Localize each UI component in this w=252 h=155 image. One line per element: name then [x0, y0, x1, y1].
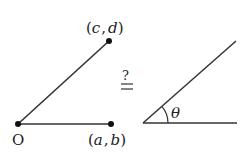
vector-oc	[18, 41, 109, 124]
right-figure: θ	[143, 41, 237, 123]
theta-label: θ	[171, 104, 180, 122]
point-c-label: (c,d)	[86, 19, 124, 37]
origin-point	[15, 121, 21, 127]
angle-ray-diagonal	[143, 41, 236, 123]
questioned-equals-icon: ?	[121, 68, 133, 89]
angle-diagram: O (a,b) (c,d) ? θ	[0, 0, 252, 155]
point-a-label: (a,b)	[88, 131, 126, 149]
question-mark: ?	[122, 68, 129, 83]
angle-arc	[162, 106, 168, 123]
point-a	[108, 121, 114, 127]
point-c	[106, 38, 112, 44]
left-figure: O (a,b) (c,d)	[12, 19, 126, 149]
origin-label: O	[12, 131, 24, 149]
